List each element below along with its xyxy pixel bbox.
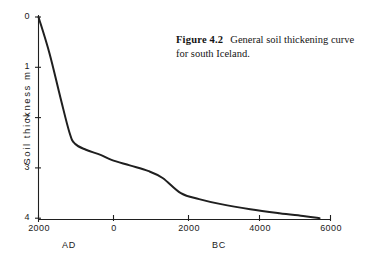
y-tick-label-4: 4 bbox=[8, 212, 30, 222]
era-label-bc: BC bbox=[199, 240, 239, 250]
figure-container: Figure 4.2General soil thickening curve … bbox=[0, 0, 367, 265]
x-tick-label-0: 0 bbox=[89, 223, 139, 233]
y-axis-title: Soil thickness m bbox=[21, 48, 32, 188]
x-axis-ticks bbox=[39, 215, 331, 222]
x-tick-label-6000bc: 6000 bbox=[306, 223, 356, 233]
y-tick-label-0: 0 bbox=[8, 11, 30, 21]
x-tick-label-2000bc: 2000 bbox=[164, 223, 214, 233]
x-tick-label-4000bc: 4000 bbox=[235, 223, 285, 233]
era-label-ad: AD bbox=[49, 240, 89, 250]
x-tick-label-2000ad: 2000 bbox=[14, 223, 64, 233]
soil-thickness-curve bbox=[39, 17, 320, 218]
